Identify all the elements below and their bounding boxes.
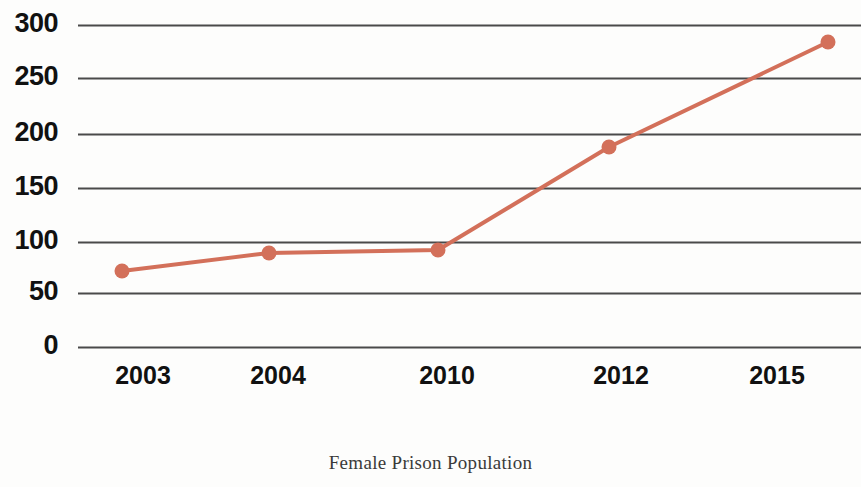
y-tick-text: 300 [14,8,58,39]
x-tick-label-2015: 2015 [749,361,805,390]
y-tick-text: 150 [14,171,58,202]
y-tick-text: 250 [14,61,58,92]
gridlines-group [78,26,861,348]
x-tick-label-2003: 2003 [115,361,171,390]
chart-caption: Female Prison Population [0,452,861,474]
data-point-marker [431,243,446,258]
x-tick-label-2004: 2004 [250,361,306,390]
data-point-marker [115,264,130,279]
y-tick-text: 0 [43,330,58,361]
data-point-marker [262,246,277,261]
chart-plot-area [0,0,861,420]
data-point-marker [602,140,617,155]
y-tick-text: 100 [14,225,58,256]
x-tick-label-2010: 2010 [419,361,475,390]
line-chart: 050100150200250300 20032004201020122015 [0,0,861,420]
x-tick-label-2012: 2012 [593,361,649,390]
data-point-marker [821,35,836,50]
y-tick-text: 50 [29,276,58,307]
y-tick-text: 200 [14,117,58,148]
series-line-0 [122,42,828,271]
chart-page: 050100150200250300 20032004201020122015 … [0,0,861,487]
